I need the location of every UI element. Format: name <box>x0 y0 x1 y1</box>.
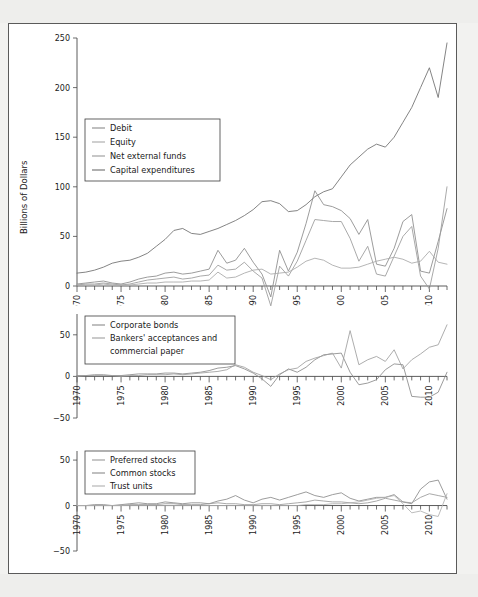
x-tick-label: 2010 <box>425 515 434 535</box>
data-series-line <box>77 494 447 517</box>
chart-svg-bottom: −500501970197519801985199019952000200520… <box>9 441 458 575</box>
legend-label: Equity <box>110 137 136 147</box>
chart-legend: Preferred stocksCommon stocksTrust units <box>85 451 195 494</box>
y-tick-label: 50 <box>60 456 70 465</box>
y-tick-label: 0 <box>65 282 70 291</box>
x-tick-label: 1995 <box>293 295 302 306</box>
x-tick-label: 2010 <box>425 295 434 306</box>
legend-label: Corporate bonds <box>110 320 178 330</box>
y-tick-label: 0 <box>65 372 70 381</box>
y-tick-label: 250 <box>55 34 70 43</box>
legend-label: commercial paper <box>110 346 185 356</box>
page-margin-bottom <box>0 574 478 597</box>
x-tick-label: 2000 <box>337 385 346 405</box>
y-tick-label: −50 <box>53 547 70 556</box>
x-tick-label: 2005 <box>381 385 390 405</box>
x-tick-label: 1990 <box>249 295 258 306</box>
y-tick-label: 50 <box>60 232 70 241</box>
y-tick-label: 0 <box>65 502 70 511</box>
data-series-line <box>77 251 447 285</box>
legend-label: Capital expenditures <box>110 165 195 175</box>
chart-svg-top: 0501001502002501970197519801985199019952… <box>9 24 458 306</box>
chart-svg-middle: −500501970197519801985199019952000200520… <box>9 306 458 441</box>
x-tick-label: 1980 <box>161 295 170 306</box>
chart-legend: DebitEquityNet external fundsCapital exp… <box>85 119 220 181</box>
figure-frame: Billions of Dollars 05010015020025019701… <box>8 23 457 574</box>
x-tick-label: 1990 <box>249 515 258 535</box>
legend-label: Net external funds <box>110 151 186 161</box>
x-tick-label: 1980 <box>161 515 170 535</box>
y-tick-label: 50 <box>60 331 70 340</box>
x-tick-label: 1975 <box>117 385 126 405</box>
x-tick-label: 1970 <box>73 385 82 405</box>
x-tick-label: 1980 <box>161 385 170 405</box>
legend-label: Debit <box>110 123 133 133</box>
x-tick-label: 2000 <box>337 515 346 535</box>
x-tick-label: 1970 <box>73 515 82 535</box>
chart-panel-middle: −500501970197519801985199019952000200520… <box>9 306 458 441</box>
y-tick-label: −50 <box>53 414 70 423</box>
x-tick-label: 1995 <box>293 385 302 405</box>
x-tick-label: 1985 <box>205 295 214 306</box>
chart-panel-bottom: −500501970197519801985199019952000200520… <box>9 441 458 575</box>
chart-panel-top: 0501001502002501970197519801985199019952… <box>9 24 458 306</box>
legend-label: Bankers' acceptances and <box>110 333 217 343</box>
legend-label: Preferred stocks <box>110 455 176 465</box>
x-tick-label: 2005 <box>381 515 390 535</box>
legend-label: Trust units <box>109 481 153 491</box>
x-tick-label: 1985 <box>205 515 214 535</box>
x-tick-label: 1995 <box>293 515 302 535</box>
x-tick-label: 1985 <box>205 385 214 405</box>
x-tick-label: 1970 <box>73 295 82 306</box>
y-tick-label: 100 <box>55 183 70 192</box>
chart-legend: Corporate bondsBankers' acceptances andc… <box>85 316 235 364</box>
x-tick-label: 1975 <box>117 515 126 535</box>
x-tick-label: 1975 <box>117 295 126 306</box>
data-series-line <box>77 191 447 297</box>
page-margin-top <box>0 0 478 23</box>
y-tick-label: 150 <box>55 133 70 142</box>
y-tick-label: 200 <box>55 84 70 93</box>
x-tick-label: 1990 <box>249 385 258 405</box>
legend-label: Common stocks <box>110 468 175 478</box>
x-tick-label: 2005 <box>381 295 390 306</box>
x-tick-label: 2000 <box>337 295 346 306</box>
